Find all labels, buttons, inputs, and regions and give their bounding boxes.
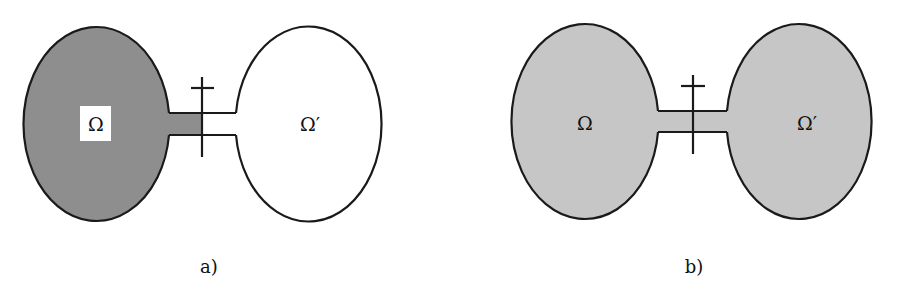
domain-omega-b	[511, 24, 871, 219]
omega-prime-label-a: Ω′	[300, 113, 320, 135]
caption-b: b)	[685, 256, 704, 277]
figure-canvas: Ω Ω′ a) Ω Ω′ b)	[0, 0, 900, 306]
panel-b: Ω Ω′ b)	[511, 24, 871, 277]
omega-label-b: Ω	[577, 112, 593, 134]
caption-a: a)	[200, 256, 218, 277]
panel-a: Ω Ω′ a)	[23, 27, 381, 278]
omega-label-a: Ω	[88, 113, 104, 135]
domain-omega-a	[23, 27, 203, 221]
omega-prime-label-b: Ω′	[797, 112, 817, 134]
